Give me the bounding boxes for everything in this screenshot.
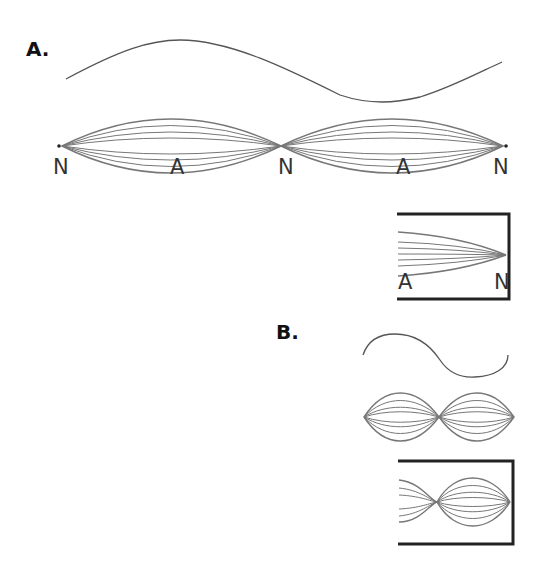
antinode-label-a1: A	[170, 157, 184, 178]
panel-b-standing-wave	[364, 393, 514, 441]
closed-end-node-label: N	[494, 272, 510, 293]
standing-wave-diagram	[0, 0, 542, 576]
antinode-label-a2: A	[396, 157, 410, 178]
panel-b-closed-end	[398, 461, 513, 544]
panel-a-label: A.	[26, 37, 49, 61]
node-label-n3: N	[493, 157, 509, 178]
right-endpoint-dot	[504, 144, 508, 148]
node-label-n1: N	[53, 157, 69, 178]
node-label-n2: N	[278, 157, 294, 178]
closed-end-antinode-label: A	[398, 272, 412, 293]
panel-b-label: B.	[276, 320, 299, 344]
left-endpoint-dot	[57, 144, 61, 148]
panel-a-wave	[66, 40, 502, 102]
panel-a-closed-end	[397, 214, 509, 299]
panel-b-wave	[363, 334, 508, 377]
